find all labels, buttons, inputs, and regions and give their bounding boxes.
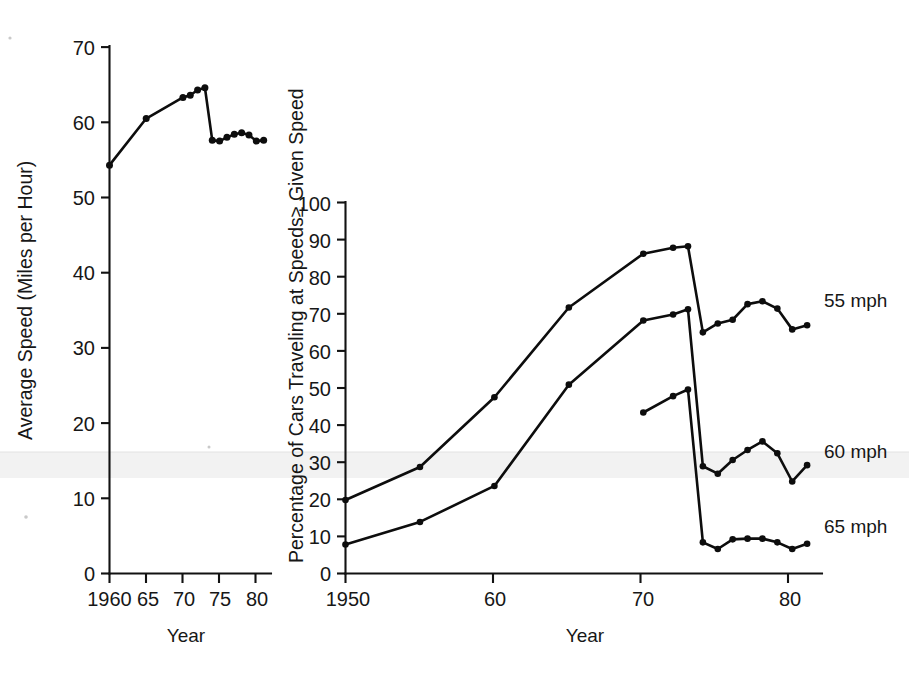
data-point [744,301,751,308]
data-point [640,250,647,257]
data-point [729,457,736,464]
series-label-65mph: 65 mph [824,516,887,537]
left-x-axis-title: Year [167,625,206,646]
data-point [640,317,647,324]
data-point [216,138,223,145]
data-point [670,311,677,318]
data-point [789,326,796,333]
data-point [179,94,186,101]
two-panel-line-chart: Average Speed (Miles per Hour) 0 10 20 3… [0,0,909,688]
data-point [714,546,721,553]
data-point [804,462,811,469]
series-label-55mph: 55 mph [824,290,887,311]
data-point [491,394,498,401]
left-y-tick-label-10: 10 [73,488,95,510]
data-point [245,132,252,139]
data-point [342,497,349,504]
left-x-tick-label-70: 70 [173,588,195,610]
data-point [143,115,150,122]
data-point [759,298,766,305]
data-point [106,162,113,169]
left-y-tick-label-40: 40 [73,262,95,284]
data-point [194,86,201,93]
data-point [804,322,811,329]
right-y-tick-label-20: 20 [309,489,331,511]
data-point [774,450,781,457]
speckle [8,36,11,39]
data-point [714,320,721,327]
left-y-axis-title: Average Speed (Miles per Hour) [14,161,36,440]
right-x-tick-label-70: 70 [632,588,654,610]
data-point [253,138,260,145]
data-point [231,131,238,138]
left-y-tick-label-50: 50 [73,187,95,209]
data-point [744,447,751,454]
speckle [24,515,28,519]
data-point [729,536,736,543]
data-point [209,137,216,144]
left-y-tick-label-70: 70 [73,37,95,59]
right-y-tick-label-0: 0 [320,563,331,585]
data-point [759,438,766,445]
data-point [342,541,349,548]
left-y-tick-label-30: 30 [73,337,95,359]
data-point [670,244,677,251]
data-point [201,84,208,91]
scan-artifact-band [0,452,909,478]
right-y-tick-label-90: 90 [309,230,331,252]
data-point [685,243,692,250]
data-point [187,92,194,99]
left-x-tick-label-80: 80 [246,588,268,610]
data-point [491,483,498,490]
data-point [804,541,811,548]
right-y-tick-label-40: 40 [309,415,331,437]
data-point [774,305,781,312]
right-x-tick-label-60: 60 [484,588,506,610]
right-y-tick-label-100: 100 [298,193,331,215]
right-y-tick-label-30: 30 [309,452,331,474]
data-point [744,535,751,542]
figure-container: Average Speed (Miles per Hour) 0 10 20 3… [0,0,909,688]
data-point [789,546,796,553]
data-point [566,381,573,388]
right-y-tick-label-60: 60 [309,341,331,363]
left-x-tick-label-1960: 1960 [87,588,132,610]
data-point [789,478,796,485]
data-point [774,539,781,546]
right-y-tick-label-50: 50 [309,378,331,400]
data-point [700,329,707,336]
data-point [759,535,766,542]
right-y-axis-title: Percentage of Cars Traveling at Speeds≥ … [285,88,307,563]
left-x-tick-label-65: 65 [137,588,159,610]
data-point [729,316,736,323]
right-x-axis-title: Year [566,625,605,646]
data-point [260,137,267,144]
left-y-tick-label-60: 60 [73,112,95,134]
data-point [700,463,707,470]
data-point [417,464,424,471]
right-x-tick-label-1950: 1950 [326,588,371,610]
data-point [640,409,647,416]
data-point [714,470,721,477]
left-y-tick-label-0: 0 [84,563,95,585]
right-y-tick-label-10: 10 [309,526,331,548]
data-point [685,306,692,313]
left-y-tick-label-20: 20 [73,413,95,435]
data-point [670,393,677,400]
data-point [685,386,692,393]
right-y-tick-label-70: 70 [309,304,331,326]
data-point [566,304,573,311]
data-point [417,519,424,526]
right-y-tick-label-80: 80 [309,267,331,289]
data-point [238,129,245,136]
data-point [700,539,707,546]
right-x-tick-label-80: 80 [779,588,801,610]
data-point [223,134,230,141]
figure-background [0,0,909,688]
series-label-60mph: 60 mph [824,441,887,462]
left-x-tick-label-75: 75 [209,588,231,610]
speckle [208,446,211,449]
